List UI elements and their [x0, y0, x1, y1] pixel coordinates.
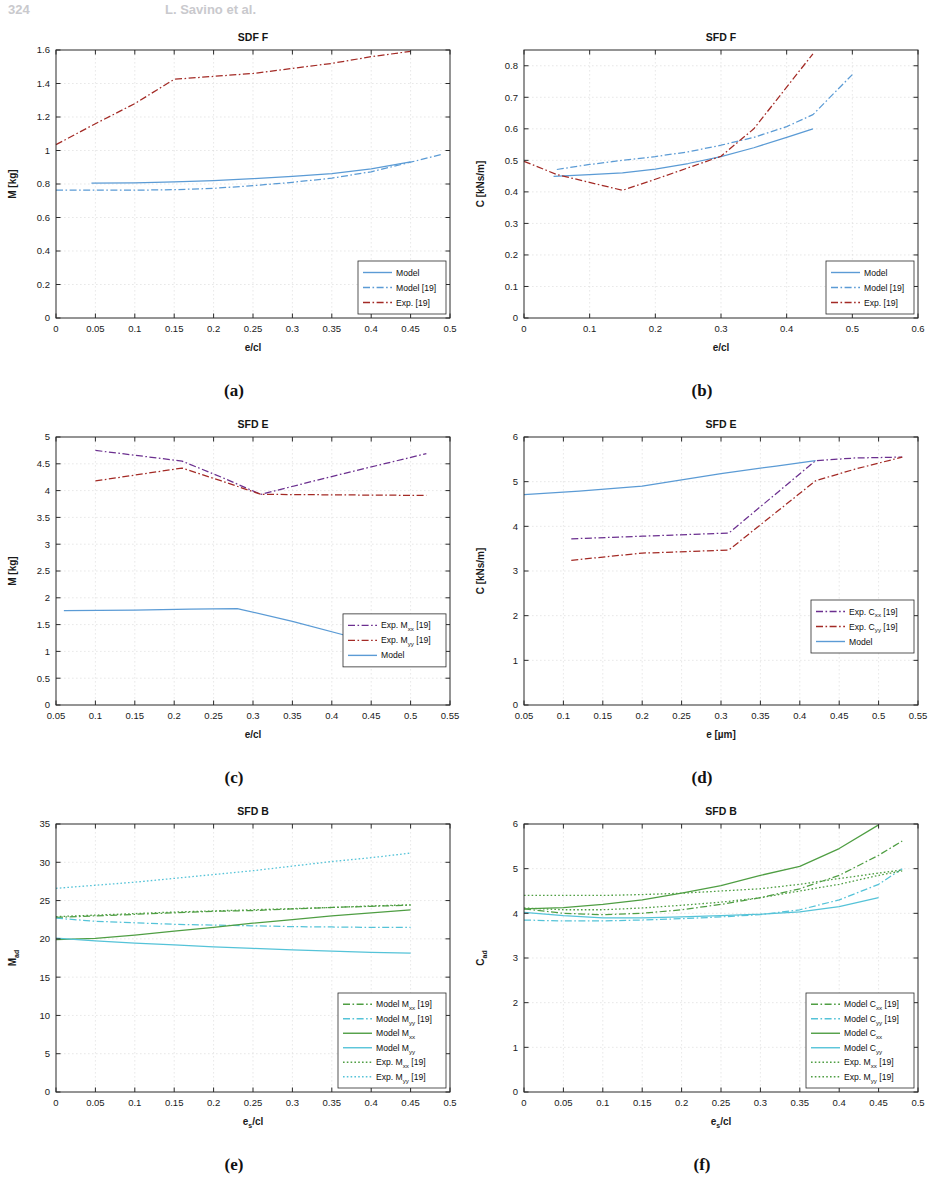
plot-a: SDF F00.050.10.150.20.250.30.350.40.450.…	[0, 24, 468, 376]
figure-panel-e: SFD B00.050.10.150.20.250.30.350.40.450.…	[0, 792, 468, 1179]
xtick-label: 0.3	[714, 710, 727, 721]
figure-panel-grid: SDF F00.050.10.150.20.250.30.350.40.450.…	[0, 18, 936, 1179]
ytick-label: 0	[45, 699, 50, 710]
xtick-label: 0.35	[323, 1097, 342, 1108]
plot-title-c: SFD E	[238, 418, 269, 430]
x-axis-label-e: es/cl	[243, 1116, 264, 1129]
plot-f: SFD B00.050.10.150.20.250.30.350.40.450.…	[468, 798, 936, 1150]
legend-label: Model	[864, 268, 887, 278]
xtick-label: 0.5	[443, 323, 456, 334]
series-group	[524, 825, 902, 921]
series-line-c-0	[95, 450, 426, 494]
xtick-label: 0.25	[244, 1097, 263, 1108]
ytick-label: 5	[45, 431, 50, 442]
axis-ticks: 0.050.10.150.20.250.30.350.40.450.50.550…	[513, 431, 928, 721]
xtick-label: 0.1	[89, 710, 102, 721]
series-line-a-2	[56, 51, 411, 144]
y-axis-label-e: Mad	[7, 950, 20, 967]
figure-page: 324 L. Savino et al. SDF F00.050.10.150.…	[0, 0, 936, 1179]
ytick-label: 3.5	[37, 512, 50, 523]
ytick-label: 3	[513, 565, 518, 576]
xtick-label: 0.05	[515, 710, 534, 721]
ytick-label: 2	[513, 610, 518, 621]
xtick-label: 0.45	[869, 1097, 888, 1108]
xtick-label: 0.05	[554, 1097, 573, 1108]
ytick-label: 2.5	[37, 565, 50, 576]
ytick-label: 0.8	[505, 60, 518, 71]
series-line-c-2	[64, 609, 356, 638]
plot-title-f: SFD B	[705, 805, 737, 817]
ytick-label: 0.7	[505, 92, 518, 103]
series-line-e-3	[56, 938, 411, 953]
ytick-label: 0.1	[505, 281, 518, 292]
xtick-label: 0.4	[325, 710, 338, 721]
panel-caption-b: (b)	[468, 381, 936, 401]
xtick-label: 0.15	[633, 1097, 652, 1108]
ytick-label: 35	[39, 818, 50, 829]
legend-f[interactable]: Model Cxx [19]Model Cyy [19]Model CxxMod…	[806, 993, 914, 1088]
xtick-label: 0.55	[441, 710, 460, 721]
xtick-label: 0.6	[911, 323, 924, 334]
ytick-label: 5	[45, 1048, 50, 1059]
xtick-label: 0.2	[636, 710, 649, 721]
ytick-label: 0.2	[505, 249, 518, 260]
x-axis-label-b: e/cl	[713, 342, 730, 353]
xtick-label: 0.05	[86, 323, 105, 334]
xtick-label: 0.35	[791, 1097, 810, 1108]
series-line-f-2	[524, 825, 879, 909]
legend-b[interactable]: ModelModel [19]Exp. [19]	[826, 261, 914, 314]
xtick-label: 0.1	[583, 323, 596, 334]
ytick-label: 0.6	[37, 212, 50, 223]
ytick-label: 0.5	[37, 673, 50, 684]
xtick-label: 0.4	[833, 1097, 846, 1108]
xtick-label: 0.25	[712, 1097, 731, 1108]
ytick-label: 0.2	[37, 279, 50, 290]
xtick-label: 0.2	[207, 323, 220, 334]
ytick-label: 15	[39, 972, 50, 983]
figure-panel-a: SDF F00.050.10.150.20.250.30.350.40.450.…	[0, 18, 468, 405]
series-group	[56, 853, 411, 953]
ytick-label: 3	[513, 952, 518, 963]
series-group	[524, 54, 852, 191]
ytick-label: 0	[45, 1086, 50, 1097]
figure-panel-b: SFD F00.10.20.30.40.50.600.10.20.30.40.5…	[468, 18, 936, 405]
ytick-label: 2	[513, 997, 518, 1008]
ytick-label: 0	[513, 312, 518, 323]
legend-d[interactable]: Exp. Cxx [19]Exp. Cyy [19]Model	[811, 600, 914, 653]
panel-caption-a: (a)	[0, 381, 468, 401]
ytick-label: 2	[45, 592, 50, 603]
xtick-label: 0.5	[872, 710, 885, 721]
figure-panel-c: SFD E0.050.10.150.20.250.30.350.40.450.5…	[0, 405, 468, 792]
ytick-label: 5	[513, 863, 518, 874]
gridlines	[524, 437, 918, 705]
plot-title-b: SFD F	[706, 31, 737, 43]
ytick-label: 4	[513, 908, 518, 919]
legend-c[interactable]: Exp. Mxx [19]Exp. Myy [19]Model	[343, 614, 446, 667]
legend-label: Model	[396, 268, 419, 278]
xtick-label: 0.05	[86, 1097, 105, 1108]
ytick-label: 0.4	[37, 245, 50, 256]
xtick-label: 0.15	[165, 323, 184, 334]
legend-label: Model	[849, 637, 872, 647]
xtick-label: 0.2	[649, 323, 662, 334]
ytick-label: 4	[45, 485, 50, 496]
ytick-label: 0.8	[37, 178, 50, 189]
xtick-label: 0.35	[283, 710, 302, 721]
series-line-b-1	[557, 75, 853, 170]
xtick-label: 0.45	[401, 323, 420, 334]
legend-label: Model [19]	[396, 283, 436, 293]
xtick-label: 0.3	[754, 1097, 767, 1108]
ytick-label: 1	[513, 1042, 518, 1053]
xtick-label: 0.4	[780, 323, 793, 334]
plot-d: SFD E0.050.10.150.20.250.30.350.40.450.5…	[468, 411, 936, 763]
ytick-label: 0.6	[505, 123, 518, 134]
xtick-label: 0.3	[246, 710, 259, 721]
y-axis-label-f: Cad	[475, 950, 488, 965]
xtick-label: 0.25	[204, 710, 223, 721]
legend-a[interactable]: ModelModel [19]Exp. [19]	[358, 261, 446, 314]
xtick-label: 0.25	[672, 710, 691, 721]
xtick-label: 0.05	[47, 710, 66, 721]
plot-b: SFD F00.10.20.30.40.50.600.10.20.30.40.5…	[468, 24, 936, 376]
legend-e[interactable]: Model Mxx [19]Model Myy [19]Model MxxMod…	[338, 993, 446, 1088]
legend-label: Exp. [19]	[396, 298, 430, 308]
